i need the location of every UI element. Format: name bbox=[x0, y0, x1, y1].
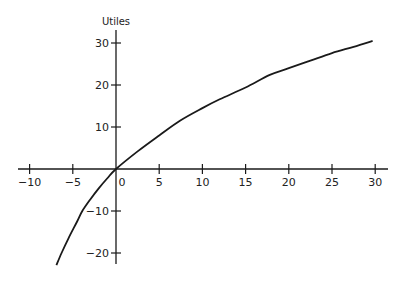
x-tick-label: 0 bbox=[119, 176, 126, 189]
y-tick-label: 10 bbox=[95, 121, 109, 134]
x-tick-label: 10 bbox=[195, 176, 209, 189]
x-tick-label: 5 bbox=[156, 176, 163, 189]
x-tick-label: 25 bbox=[325, 176, 339, 189]
y-tick-label: −10 bbox=[86, 205, 109, 218]
y-tick-label: −20 bbox=[86, 247, 109, 260]
x-tick-label: 20 bbox=[282, 176, 296, 189]
utility-chart: −10−5051015202530 302010−10−20 Utiles bbox=[0, 0, 403, 285]
x-tick-label: −10 bbox=[18, 176, 41, 189]
y-tick-label: 30 bbox=[95, 37, 109, 50]
x-tick-label: −5 bbox=[65, 176, 81, 189]
x-tick-label: 30 bbox=[368, 176, 382, 189]
y-axis-title: Utiles bbox=[102, 16, 130, 27]
utility-curve bbox=[56, 41, 372, 265]
y-tick-label: 20 bbox=[95, 79, 109, 92]
x-tick-label: 15 bbox=[239, 176, 253, 189]
x-ticks: −10−5051015202530 bbox=[18, 164, 382, 189]
